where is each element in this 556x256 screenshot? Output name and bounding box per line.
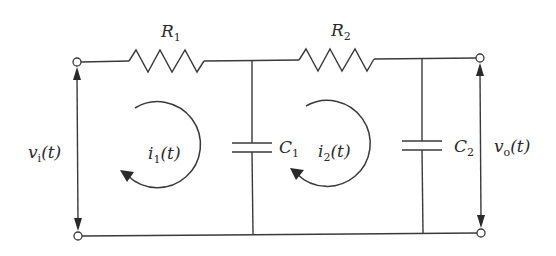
loop-current-i1: i1(t) (120, 102, 200, 188)
input-terminal-bottom (74, 232, 82, 240)
arrow-down-icon (74, 218, 82, 231)
loop-current-i2: i2(t) (290, 100, 370, 186)
i1-label: i1(t) (148, 143, 181, 166)
capacitor-c2: C2 (402, 59, 474, 233)
i2-label: i2(t) (318, 141, 351, 164)
bottom-rail (82, 233, 477, 236)
capacitor-c1: C1 (232, 60, 299, 234)
output-voltage-arrow: vo(t) (476, 63, 530, 228)
arrow-down-icon (477, 215, 485, 228)
r1-label: R1 (160, 21, 181, 44)
output-terminal-top (476, 54, 484, 62)
output-terminal-bottom (477, 229, 485, 237)
c1-label: C1 (279, 137, 299, 160)
vo-label: vo(t) (494, 136, 530, 159)
arrow-up-icon (73, 67, 81, 80)
resistor-r2: R2 (299, 20, 374, 71)
rc-ladder-circuit-diagram: R1 R2 C1 C2 vi(t) vo(t) (0, 0, 556, 256)
c2-label: C2 (454, 136, 474, 159)
input-voltage-arrow: vi(t) (28, 67, 82, 231)
r2-label: R2 (330, 20, 351, 43)
arrow-up-icon (476, 63, 484, 76)
vi-label: vi(t) (28, 142, 61, 165)
resistor-r1: R1 (129, 21, 204, 72)
input-terminal-top (73, 58, 81, 66)
